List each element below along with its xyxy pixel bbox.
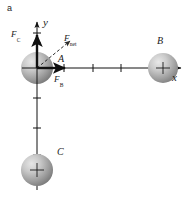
figure-container: a y x FC Fnet FB A B C xyxy=(0,0,187,199)
y-axis-label: y xyxy=(43,17,48,28)
force-b-label-symbol: F xyxy=(54,74,60,84)
force-net-label-subscript: net xyxy=(70,41,77,47)
force-c-label-subscript: C xyxy=(17,37,21,43)
force-b-label: FB xyxy=(54,75,63,86)
force-c-label: FC xyxy=(11,30,20,41)
sphere-b-label: B xyxy=(157,36,163,46)
force-b-label-subscript: B xyxy=(60,82,64,88)
force-net-label-symbol: F xyxy=(64,33,70,43)
force-net-label: Fnet xyxy=(64,34,76,45)
x-axis-label: x xyxy=(172,72,177,83)
sphere-c-label: C xyxy=(57,147,64,157)
force-c-label-symbol: F xyxy=(11,29,17,39)
force-diagram-svg xyxy=(0,0,187,199)
panel-letter-label: a xyxy=(7,4,12,13)
sphere-c xyxy=(21,154,53,186)
sphere-a-label: A xyxy=(58,54,64,64)
